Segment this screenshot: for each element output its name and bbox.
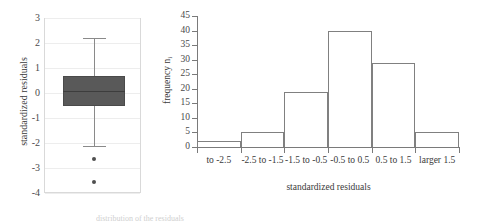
boxplot-y-tick-label: -3	[18, 163, 40, 173]
histogram-y-tick-label: 35	[162, 40, 190, 50]
histogram-bar	[284, 92, 328, 147]
boxplot-y-tick-label: 2	[18, 38, 40, 48]
histogram-y-tick-label: 45	[162, 11, 190, 21]
boxplot-y-tick-label: 0	[18, 88, 40, 98]
histogram-x-tick-mark	[197, 148, 198, 153]
boxplot-median-line	[63, 91, 125, 92]
figure-caption: distribution of the residuals	[96, 214, 426, 223]
boxplot-panel: standardized residuals 3210-1-2-3-4	[0, 0, 156, 208]
histogram-x-tick-mark	[459, 148, 460, 153]
histogram-y-tick-label: 25	[162, 69, 190, 79]
boxplot-gridline	[45, 68, 140, 69]
boxplot-y-axis-title: standardized residuals	[18, 27, 29, 177]
histogram-x-tick-mark	[415, 148, 416, 153]
histogram-x-tick-mark	[328, 148, 329, 153]
histogram-x-tick-label: larger 1.5	[411, 155, 463, 166]
histogram-bar	[241, 132, 285, 147]
boxplot-lower-whisker-cap	[83, 146, 106, 147]
histogram-plot-area	[197, 16, 459, 147]
boxplot-gridline	[45, 193, 140, 194]
histogram-x-tick-mark	[284, 148, 285, 153]
histogram-y-tick-label: 20	[162, 84, 190, 94]
boxplot-gridline	[45, 18, 140, 19]
boxplot-y-tick-label: 3	[18, 13, 40, 23]
histogram-bar	[372, 63, 416, 147]
histogram-y-tick-label: 15	[162, 98, 190, 108]
boxplot-gridline	[45, 143, 140, 144]
histogram-x-tick-mark	[372, 148, 373, 153]
boxplot-y-tick-label: 1	[18, 63, 40, 73]
histogram-bar	[197, 141, 241, 147]
boxplot-gridline	[45, 118, 140, 119]
histogram-bar	[415, 132, 459, 147]
histogram-bar	[328, 31, 372, 147]
boxplot-gridline	[45, 168, 140, 169]
histogram-x-axis-title: standardized residuals	[197, 182, 460, 192]
boxplot-upper-whisker-cap	[83, 38, 106, 39]
histogram-y-tick-label: 30	[162, 55, 190, 65]
boxplot-y-tick-label: -1	[18, 113, 40, 123]
histogram-y-tick-label: 0	[162, 142, 190, 152]
boxplot-y-tick-label: -2	[18, 138, 40, 148]
boxplot-y-tick-label: -4	[18, 188, 40, 198]
boxplot-plot-area	[44, 18, 141, 193]
histogram-y-tick-label: 5	[162, 127, 190, 137]
histogram-x-tick-mark	[241, 148, 242, 153]
histogram-y-tick-label: 10	[162, 113, 190, 123]
boxplot-outlier-point	[92, 180, 96, 184]
boxplot-gridline	[45, 43, 140, 44]
histogram-y-tick-label: 40	[162, 26, 190, 36]
boxplot-outlier-point	[92, 157, 96, 161]
histogram-panel: frequency ni 454035302520151050 to -2.5-…	[156, 0, 481, 224]
